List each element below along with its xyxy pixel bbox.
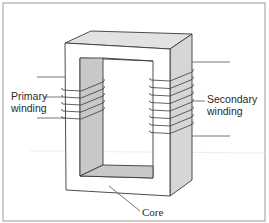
core-inner-left-wall (80, 58, 103, 176)
secondary-label-line1: Secondary (207, 93, 258, 105)
core-right-face (170, 34, 192, 196)
faint-guide-line (30, 151, 265, 153)
transformer-core (65, 31, 192, 196)
primary-label-line1: Primary (11, 90, 48, 102)
transformer-diagram: Primary winding Secondary winding Core (0, 0, 269, 223)
secondary-label-line2: winding (206, 105, 243, 117)
core-label: Core (142, 206, 164, 218)
primary-label-line2: winding (10, 102, 47, 114)
